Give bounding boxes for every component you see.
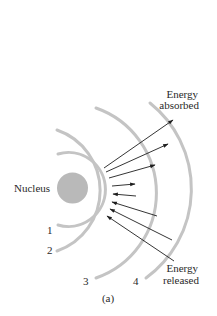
shell-3-label: 3 bbox=[83, 275, 89, 287]
arrow-released-4-1b bbox=[107, 216, 174, 261]
arrow-released-3-1 bbox=[112, 202, 157, 216]
nucleus-label: Nucleus bbox=[14, 182, 50, 194]
shell-2-label: 2 bbox=[47, 244, 53, 256]
shell-4-arc bbox=[146, 103, 191, 278]
shell-4-label: 4 bbox=[133, 275, 139, 287]
energy-absorbed-label-line2: absorbed bbox=[159, 99, 199, 111]
figure-caption: (a) bbox=[102, 292, 115, 305]
released-arrows bbox=[107, 194, 174, 261]
arrow-absorbed-1-3 bbox=[109, 165, 155, 178]
arrow-released-2-1 bbox=[113, 194, 136, 196]
arrow-absorbed-1-4 bbox=[104, 120, 173, 168]
energy-level-diagram: Nucleus 1 2 3 4 Energy absorbed Energy r… bbox=[0, 0, 217, 316]
energy-released-label-line2: released bbox=[163, 274, 200, 286]
arrow-absorbed-1-3b bbox=[106, 144, 168, 172]
shell-1-label: 1 bbox=[47, 224, 53, 236]
nucleus-circle bbox=[57, 173, 88, 204]
energy-released-label-line1: Energy bbox=[166, 262, 198, 274]
absorbed-arrows bbox=[104, 120, 173, 186]
arrow-absorbed-1-2 bbox=[112, 184, 135, 186]
